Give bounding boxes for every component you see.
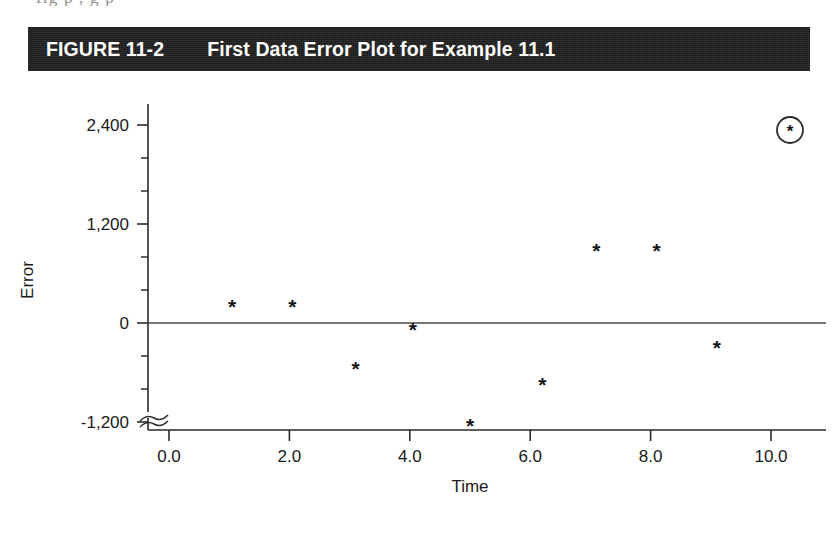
legend-asterisk-icon: * — [787, 122, 794, 141]
axis-labels-group: 2,4001,2000-1,2000.02.04.06.08.010.0Time… — [18, 116, 788, 496]
x-axis-tick-label: 6.0 — [518, 447, 542, 466]
data-point-marker: * — [288, 295, 297, 318]
data-point-marker: * — [409, 318, 418, 341]
y-axis-title: Error — [18, 261, 37, 299]
scan-clipped-text: fig p , g p — [36, 0, 796, 6]
legend-marker: * — [777, 117, 803, 143]
error-plot: ********* 2,4001,2000-1,2000.02.04.06.08… — [0, 80, 838, 536]
data-point-marker: * — [653, 239, 662, 262]
data-point-marker: * — [228, 295, 237, 318]
data-points-group: ********* — [228, 239, 722, 437]
figure-number-label: FIGURE 11-2 — [46, 38, 164, 61]
scatter-plot-svg: ********* 2,4001,2000-1,2000.02.04.06.08… — [0, 80, 838, 536]
x-axis-tick-label: 4.0 — [398, 447, 422, 466]
y-axis-tick-label: 0 — [120, 314, 129, 333]
y-axis-tick-label: 1,200 — [86, 215, 129, 234]
x-axis-tick-label: 8.0 — [639, 447, 663, 466]
figure-title-label: First Data Error Plot for Example 11.1 — [207, 38, 555, 61]
y-axis-tick-label: 2,400 — [86, 116, 129, 135]
y-axis-break-mark — [140, 415, 168, 421]
x-axis-tick-label: 10.0 — [754, 447, 787, 466]
data-point-marker: * — [713, 336, 722, 359]
data-point-marker: * — [466, 414, 475, 437]
figure-caption-bar: FIGURE 11-2 First Data Error Plot for Ex… — [28, 27, 810, 71]
x-axis-tick-label: 0.0 — [157, 447, 181, 466]
y-axis-tick-label: -1,200 — [81, 413, 129, 432]
data-point-marker: * — [538, 373, 547, 396]
data-point-marker: * — [352, 357, 361, 380]
axes-group — [137, 104, 826, 441]
x-axis-tick-label: 2.0 — [278, 447, 302, 466]
data-point-marker: * — [592, 239, 601, 262]
x-axis-title: Time — [451, 477, 488, 496]
